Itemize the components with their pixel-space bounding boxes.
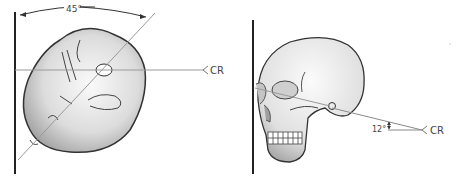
central-ray-tail	[203, 66, 208, 74]
head-rotation-svg: CR 45°	[0, 0, 230, 184]
stray-mark	[449, 43, 450, 44]
angle-arc-right	[80, 7, 146, 17]
central-ray-tail	[422, 126, 427, 134]
cr-label: CR	[430, 125, 444, 136]
head-rotation-diagram: CR 45°	[0, 0, 230, 184]
lateral-skull-svg: CR 12°	[230, 0, 460, 184]
cr-label: CR	[210, 65, 224, 76]
lateral-skull-diagram: CR 12°	[230, 0, 460, 184]
angle-arc-left	[20, 7, 95, 15]
head-outline	[23, 29, 145, 153]
arrowhead-down-icon	[387, 126, 391, 129]
angle-45-label: 45°	[66, 4, 82, 14]
angle-12-label: 12°	[372, 125, 386, 134]
teeth	[268, 132, 302, 144]
orbit	[272, 81, 298, 99]
